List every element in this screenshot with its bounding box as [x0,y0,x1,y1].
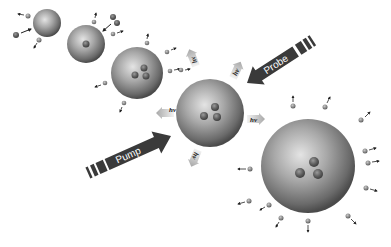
probe-arrow: Probe [241,31,319,92]
particle-stage-4: hν hν hν hν hν [156,47,265,169]
hv-arrow-up-left: hν [184,47,202,68]
hv-arrow-right: hν [247,113,265,125]
pump-arrow: Pump [83,125,176,184]
particle-stage-1 [13,9,61,48]
particle-stage-3 [95,34,180,112]
atom-group [179,68,190,73]
hv-arrow-up-right: hν [228,59,246,80]
hv-arrow-down-left: hν [186,148,204,169]
hv-label: hν [250,116,258,124]
pump-label: Pump [114,145,143,166]
particle-stage-2 [67,13,123,63]
probe-label: Probe [262,52,291,76]
hv-label: hν [169,106,177,114]
diagram-canvas: hν hν hν hν hν [0,0,391,247]
hv-arrow-left: hν [156,106,177,119]
